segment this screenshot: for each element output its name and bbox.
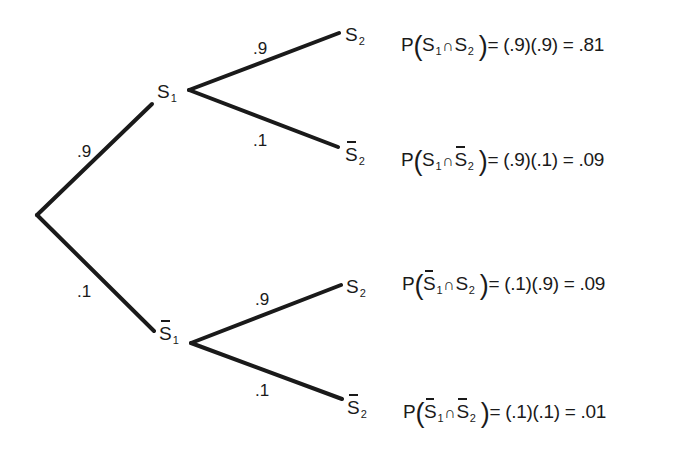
- formula-second-event-complement: S: [456, 402, 468, 421]
- node-not-s1-subscript: 1: [173, 334, 179, 346]
- prob-label-root-s1: .9: [77, 143, 91, 160]
- node-s1-letter: S: [157, 82, 170, 101]
- formula-p: P: [403, 401, 415, 422]
- formula-rhs: = (.1)(.1) = .01: [489, 401, 606, 422]
- intersection-symbol: ∩: [442, 37, 453, 54]
- formula-second-sub: 2: [468, 160, 474, 172]
- formula-not-s1-and-not-s2: P(S1∩S2 )= (.1)(.1) = .01: [403, 400, 606, 427]
- intersection-symbol: ∩: [444, 404, 455, 421]
- edge-root-s1: [37, 104, 152, 215]
- formula-first-sub: 1: [435, 160, 441, 172]
- node-s1-s2-letter: S: [345, 25, 358, 44]
- node-s1-s2: S2: [345, 25, 365, 47]
- formula-second-sub: 2: [468, 45, 474, 57]
- formula-s1-and-not-s2: P(S1∩S2 )= (.9)(.1) = .09: [401, 148, 604, 175]
- node-not-s1-s2: S2: [346, 277, 366, 299]
- formula-open-paren: (: [413, 146, 422, 176]
- node-not-s1-not-s2-subscript: 2: [361, 408, 367, 420]
- formula-open-paren: (: [415, 398, 424, 428]
- formula-second-event-complement: S: [454, 150, 466, 169]
- formula-first-sub: 1: [435, 45, 441, 57]
- probability-tree-edges: [0, 0, 689, 449]
- formula-first-sub: 1: [437, 412, 443, 424]
- node-s1: S1: [157, 82, 177, 104]
- formula-first-event: S: [422, 35, 434, 54]
- formula-not-s1-and-s2: P(S1∩S2 )= (.1)(.9) = .09: [402, 272, 605, 299]
- prob-label-s1-not-s2: .1: [253, 132, 267, 149]
- node-not-s1-s2-letter: S: [346, 277, 359, 296]
- node-not-s1-not-s2-letter: S: [347, 398, 360, 417]
- node-s1-s2-subscript: 2: [359, 35, 365, 47]
- node-not-s1: S1: [159, 324, 179, 346]
- formula-first-event: S: [422, 150, 434, 169]
- formula-p: P: [401, 34, 413, 55]
- formula-open-paren: (: [413, 31, 422, 61]
- formula-second-sub: 2: [469, 284, 475, 296]
- formula-rhs: = (.1)(.9) = .09: [488, 273, 605, 294]
- intersection-symbol: ∩: [443, 276, 454, 293]
- formula-first-event-complement: S: [424, 402, 436, 421]
- formula-second-event: S: [454, 35, 466, 54]
- intersection-symbol: ∩: [442, 152, 453, 169]
- prob-label-s1-s2: .9: [253, 40, 267, 57]
- node-s1-not-s2-subscript: 2: [359, 155, 365, 167]
- prob-label-not-s1-not-s2: .1: [255, 382, 269, 399]
- formula-open-paren: (: [414, 270, 423, 300]
- formula-p: P: [401, 149, 413, 170]
- formula-second-event: S: [455, 274, 467, 293]
- edge-root-not-s1: [37, 215, 154, 331]
- formula-s1-and-s2: P(S1∩S2 )= (.9)(.9) = .81: [401, 33, 604, 60]
- node-not-s1-not-s2: S2: [347, 398, 367, 420]
- formula-rhs: = (.9)(.1) = .09: [487, 149, 604, 170]
- node-s1-not-s2-letter: S: [345, 145, 358, 164]
- node-s1-subscript: 1: [171, 92, 177, 104]
- formula-first-event-complement: S: [423, 274, 435, 293]
- prob-label-root-not-s1: .1: [77, 283, 91, 300]
- node-s1-not-s2: S2: [345, 145, 365, 167]
- formula-rhs: = (.9)(.9) = .81: [487, 34, 604, 55]
- formula-second-sub: 2: [470, 412, 476, 424]
- node-not-s1-s2-subscript: 2: [360, 287, 366, 299]
- formula-first-sub: 1: [436, 284, 442, 296]
- formula-p: P: [402, 273, 414, 294]
- prob-label-not-s1-s2: .9: [255, 291, 269, 308]
- node-not-s1-letter: S: [159, 324, 172, 343]
